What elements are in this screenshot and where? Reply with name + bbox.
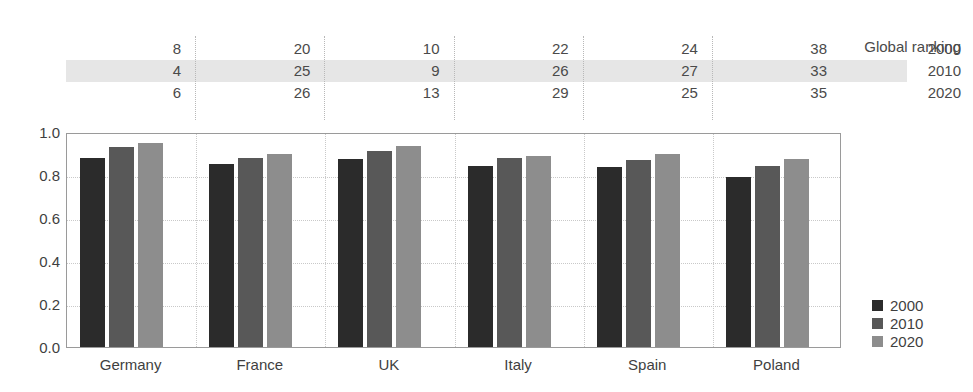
x-axis-label: Germany	[66, 356, 195, 374]
ranking-value: 26	[454, 60, 569, 82]
y-axis-tick-label: 0.6	[4, 211, 60, 226]
ranking-value: 13	[324, 82, 439, 104]
bar	[784, 159, 809, 347]
bar	[626, 160, 651, 347]
plot-area	[66, 133, 841, 348]
gridline	[67, 220, 840, 221]
gridline	[67, 306, 840, 307]
chart-figure: Global ranking 8201022243820004259262733…	[0, 0, 973, 392]
ranking-value: 8	[66, 38, 181, 60]
ranking-value: 20	[195, 38, 310, 60]
bar	[468, 166, 493, 347]
bar	[338, 159, 363, 347]
y-axis-tick-label: 0.0	[4, 340, 60, 355]
bar	[497, 158, 522, 347]
ranking-value: 35	[712, 82, 827, 104]
bar	[80, 158, 105, 347]
bar	[209, 164, 234, 347]
bar	[655, 154, 680, 348]
ranking-row: 820102224382000	[0, 38, 973, 60]
bar	[726, 177, 751, 347]
y-axis-ticks: 0.00.20.40.60.81.0	[0, 133, 60, 348]
legend-swatch	[872, 318, 883, 329]
ranking-value: 4	[66, 60, 181, 82]
y-axis-tick-label: 1.0	[4, 125, 60, 140]
x-axis-label: Spain	[583, 356, 712, 374]
bar	[597, 167, 622, 347]
bar	[267, 154, 292, 348]
legend-label: 2020	[890, 334, 923, 349]
ranking-row: 42592627332010	[0, 60, 973, 82]
ranking-value: 6	[66, 82, 181, 104]
x-axis-label: France	[195, 356, 324, 374]
gridline	[67, 177, 840, 178]
bar	[526, 156, 551, 347]
legend-item: 2020	[872, 333, 923, 350]
x-axis-label: Poland	[712, 356, 841, 374]
group-separator	[455, 134, 456, 347]
global-ranking-table: Global ranking 8201022243820004259262733…	[0, 30, 973, 120]
ranking-row: 626132925352020	[0, 82, 973, 104]
x-axis-label: Italy	[454, 356, 583, 374]
ranking-value: 24	[583, 38, 698, 60]
ranking-value: 10	[324, 38, 439, 60]
chart-legend: 200020102020	[872, 297, 923, 351]
ranking-row-year: 2020	[928, 82, 961, 104]
group-separator	[713, 134, 714, 347]
bar	[109, 147, 134, 347]
group-separator	[196, 134, 197, 347]
legend-swatch	[872, 336, 883, 347]
legend-item: 2010	[872, 315, 923, 332]
legend-item: 2000	[872, 297, 923, 314]
x-axis-label: UK	[324, 356, 453, 374]
y-axis-tick-label: 0.8	[4, 168, 60, 183]
y-axis-tick-label: 0.4	[4, 254, 60, 269]
ranking-value: 33	[712, 60, 827, 82]
ranking-value: 27	[583, 60, 698, 82]
ranking-value: 22	[454, 38, 569, 60]
bar	[238, 158, 263, 347]
bar	[138, 143, 163, 347]
bar	[755, 166, 780, 347]
legend-label: 2000	[890, 298, 923, 313]
ranking-value: 25	[583, 82, 698, 104]
ranking-row-year: 2000	[928, 38, 961, 60]
legend-label: 2010	[890, 316, 923, 331]
legend-swatch	[872, 300, 883, 311]
group-separator	[584, 134, 585, 347]
ranking-value: 9	[324, 60, 439, 82]
ranking-value: 38	[712, 38, 827, 60]
bar	[396, 146, 421, 347]
bar	[367, 151, 392, 347]
gridline	[67, 263, 840, 264]
ranking-value: 25	[195, 60, 310, 82]
ranking-value: 29	[454, 82, 569, 104]
ranking-value: 26	[195, 82, 310, 104]
ranking-row-year: 2010	[928, 60, 961, 82]
group-separator	[325, 134, 326, 347]
y-axis-tick-label: 0.2	[4, 297, 60, 312]
